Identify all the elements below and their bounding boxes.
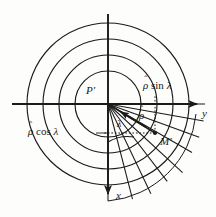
hat-accent-3: ˆ bbox=[140, 105, 143, 114]
rho-hat-glyph-1: ˆρ bbox=[143, 80, 148, 91]
origin-label: P' bbox=[86, 85, 95, 96]
lambda-glyph-1: λ bbox=[167, 79, 172, 91]
y-axis-label: y bbox=[202, 108, 207, 119]
rho-hat-glyph-2: ˆρ bbox=[28, 126, 33, 137]
rho-sin-lambda-label: ˆρ sin λ bbox=[143, 80, 171, 91]
hat-accent-2: ˆ bbox=[29, 121, 32, 130]
radial-line-5 bbox=[108, 104, 167, 181]
x-axis-label: x bbox=[116, 190, 121, 201]
cos-operator: cos bbox=[33, 125, 53, 137]
hat-accent-1: ˆ bbox=[144, 75, 147, 84]
point-m-label: M' bbox=[160, 136, 172, 147]
radial-grid-lines bbox=[108, 104, 205, 201]
point-marker-m bbox=[153, 131, 157, 135]
lambda-glyph-2: λ bbox=[53, 125, 58, 137]
polar-coordinate-figure: P' M' y x ˆρ sin λ ˆρ cos λ ˆρ λ bbox=[0, 0, 216, 217]
rho-hat-glyph-3: ˆρ bbox=[139, 110, 144, 121]
lambda-angle-label: λ bbox=[117, 119, 121, 129]
rho-cos-lambda-label: ˆρ cos λ bbox=[28, 126, 58, 137]
axes bbox=[12, 14, 197, 194]
sin-operator: sin bbox=[148, 79, 166, 91]
figure-canvas bbox=[0, 0, 216, 217]
rho-label: ˆρ bbox=[139, 110, 144, 121]
